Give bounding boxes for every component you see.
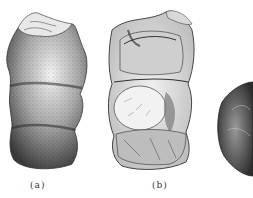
panel-a-label: (a) xyxy=(30,180,45,190)
panel-b-label: (b) xyxy=(152,180,168,190)
specimen-a-illustration xyxy=(0,0,253,198)
